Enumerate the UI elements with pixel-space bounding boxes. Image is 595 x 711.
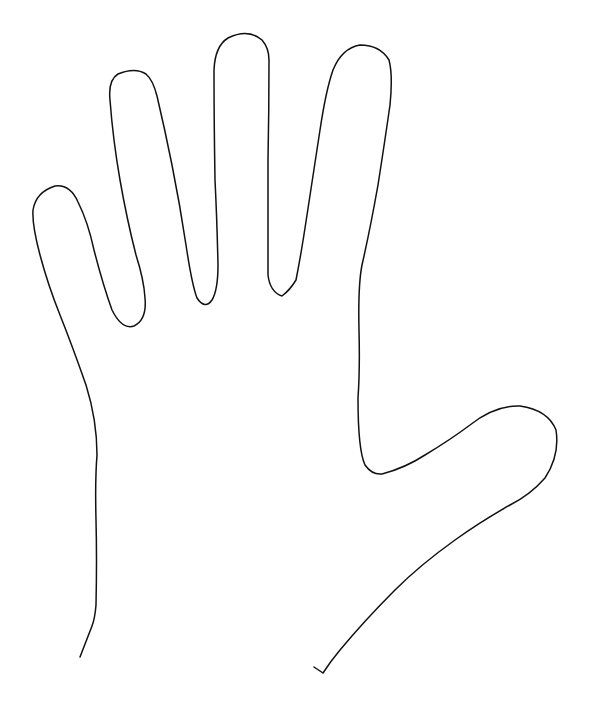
hand-outline-drawing	[0, 0, 595, 711]
hand-outline-svg	[0, 0, 595, 711]
hand-outline-path	[33, 33, 557, 673]
